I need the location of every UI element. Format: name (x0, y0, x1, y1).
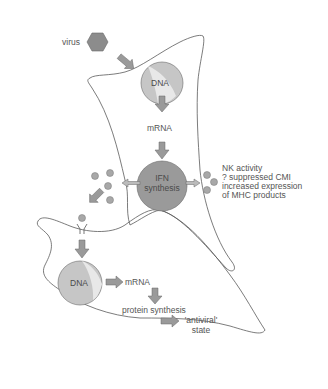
dna-lower-label: DNA (70, 278, 88, 288)
mrna-lower-label: mRNA (125, 277, 150, 287)
ifn-to-receptor-arrow-icon (85, 186, 106, 207)
receptor-to-dna-arrow-icon (75, 240, 89, 258)
ifn-secretion-right-arrow-icon (186, 179, 200, 187)
virus-hexagon-icon (87, 33, 108, 51)
dna-to-mrna-lower-arrow-icon (106, 276, 123, 288)
mrna-upper-label: mRNA (147, 123, 172, 133)
ifn-bound-molecule (79, 215, 86, 222)
mrna-to-protein-arrow-icon (148, 288, 162, 304)
protein-synthesis-label: protein synthesis (122, 305, 186, 315)
ifn-label-line2: synthesis (137, 183, 187, 193)
virus-entry-arrow-icon (115, 52, 137, 73)
mrna-to-ifn-arrow-icon (155, 142, 169, 159)
ifn-molecules-right (204, 172, 218, 194)
diagram-canvas: virus DNA mRNA IFN synthesis NK activity… (0, 0, 328, 389)
virus-label: virus (62, 37, 80, 47)
ifn-effects-label: NK activity ? suppressed CMI increased e… (222, 164, 302, 200)
dna-upper-label: DNA (151, 78, 169, 88)
ifn-label-line1: IFN (137, 173, 187, 183)
antiviral-state-label: 'antiviral' state (176, 315, 226, 335)
